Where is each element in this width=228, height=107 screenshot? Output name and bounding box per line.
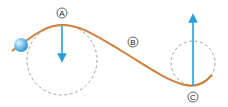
track-diagram: A B C <box>0 0 228 107</box>
label-c: C <box>188 92 198 102</box>
label-a: A <box>57 8 67 18</box>
track-curve <box>12 25 212 86</box>
svg-text:A: A <box>59 9 65 18</box>
label-b: B <box>128 37 138 47</box>
ball <box>14 38 28 52</box>
svg-text:C: C <box>190 93 196 102</box>
svg-text:B: B <box>130 38 135 47</box>
